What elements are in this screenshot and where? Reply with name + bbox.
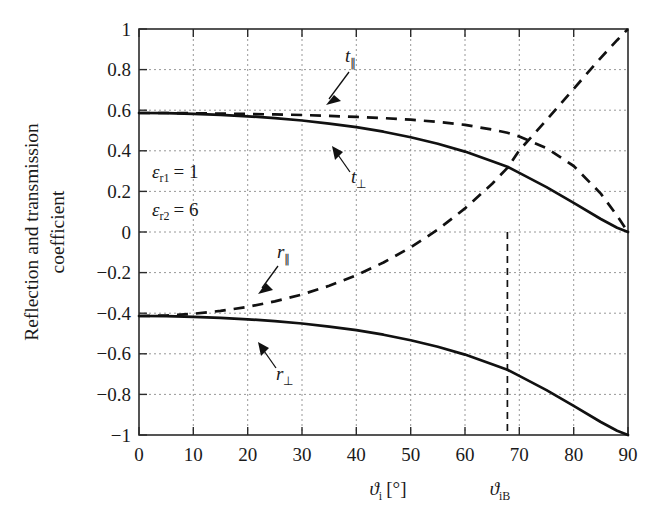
x-tick-label: 10 (184, 444, 203, 465)
annotation-epsilon-r2: εr2= 6 (152, 199, 198, 223)
y-tick-label: −0.4 (97, 303, 132, 324)
x-tick-label: 60 (456, 444, 475, 465)
y-axis-title-line2: coefficient (47, 190, 68, 274)
x-axis-tick-labels: 0 10 20 30 40 50 60 70 80 90 (134, 444, 637, 465)
y-tick-label: −0.8 (97, 384, 131, 405)
y-tick-label: 0.6 (107, 100, 131, 121)
t-par-subscript: ∥ (350, 56, 356, 70)
epsilon-r2-value: = 6 (174, 199, 199, 220)
x-tick-label: 20 (238, 444, 257, 465)
y-tick-label: 0.8 (107, 59, 131, 80)
y-tick-label: 0.2 (107, 181, 131, 202)
chart-svg: 1 0.8 0.6 0.4 0.2 0 −0.2 −0.4 −0.6 −0.8 … (0, 0, 671, 519)
brewster-subscript: iB (499, 489, 510, 503)
y-tick-label: 0 (122, 222, 132, 243)
x-axis-title-unit: [°] (386, 478, 406, 499)
r-perp-subscript: ⊥ (283, 374, 293, 388)
epsilon-r2-subscript: r2 (160, 209, 170, 223)
fresnel-coefficients-figure: 1 0.8 0.6 0.4 0.2 0 −0.2 −0.4 −0.6 −0.8 … (0, 0, 671, 519)
x-axis-title: ϑi[°] (370, 478, 407, 503)
x-tick-label: 90 (619, 444, 638, 465)
x-tick-label: 30 (293, 444, 312, 465)
brewster-angle-label: ϑiB (490, 478, 511, 503)
y-tick-label: −0.6 (97, 343, 131, 364)
y-tick-label: −0.2 (97, 262, 131, 283)
y-tick-label: 0.4 (107, 140, 131, 161)
y-tick-label: 1 (122, 19, 132, 40)
x-tick-label: 40 (347, 444, 366, 465)
t-perp-subscript: ⊥ (356, 177, 366, 191)
epsilon-r1-value: = 1 (174, 161, 199, 182)
x-tick-label: 70 (510, 444, 529, 465)
x-tick-label: 50 (401, 444, 420, 465)
x-tick-label: 80 (564, 444, 583, 465)
y-tick-label: −1 (111, 425, 131, 446)
epsilon-r1-subscript: r1 (160, 171, 170, 185)
y-axis-title-line1: Reflection and transmission (21, 123, 42, 341)
x-axis-title-subscript: i (379, 489, 383, 503)
annotation-epsilon-r1: εr1= 1 (152, 161, 198, 185)
y-axis-tick-labels: 1 0.8 0.6 0.4 0.2 0 −0.2 −0.4 −0.6 −0.8 … (97, 19, 132, 446)
r-par-subscript: ∥ (284, 252, 290, 266)
x-tick-label: 0 (134, 444, 144, 465)
